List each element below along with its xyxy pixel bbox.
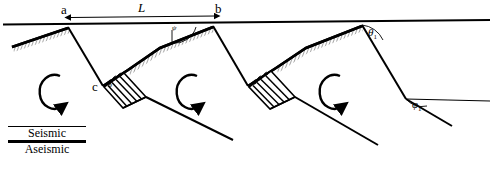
- label-point-a: a: [61, 3, 67, 16]
- fault-block-middle: [213, 26, 248, 86]
- label-span-L: L: [138, 1, 145, 14]
- diagram-canvas: a b L c φ ψ θ1 φ1 Seismic Aseismic: [0, 0, 493, 173]
- fault-block-right: [362, 25, 490, 126]
- rotation-marker-3: [320, 75, 343, 109]
- label-point-b: b: [215, 2, 222, 15]
- rotation-marker-1: [40, 75, 63, 109]
- theta-subscript: 1: [373, 33, 377, 41]
- legend-aseismic-label: Aseismic: [8, 143, 86, 156]
- label-point-c: c: [92, 80, 98, 93]
- shear-wedge-two: [248, 26, 378, 145]
- fault-block-left: [12, 27, 103, 86]
- label-angle-phi1: φ1: [412, 99, 422, 113]
- shear-wedge-one: [103, 27, 233, 140]
- label-angle-theta1: θ1: [368, 27, 377, 41]
- span-L-dimension: [71, 16, 215, 18]
- legend-seismic-label: Seismic: [8, 127, 86, 140]
- label-angle-psi: ψ: [172, 25, 176, 32]
- label-angle-small-c: φ: [108, 82, 112, 89]
- phi-subscript: 1: [418, 105, 422, 113]
- rotation-marker-2: [177, 75, 200, 109]
- ground-surface-line: [3, 20, 490, 25]
- legend: Seismic Aseismic: [8, 126, 86, 157]
